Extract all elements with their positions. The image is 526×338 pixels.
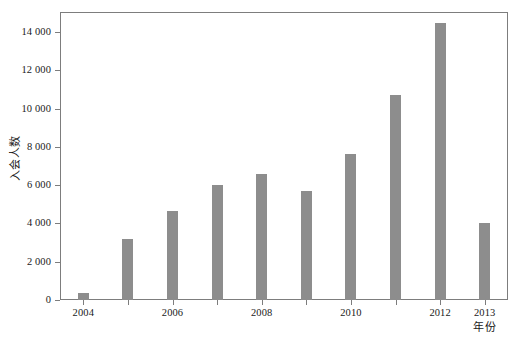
y-axis-tick: 4 000 <box>0 223 60 224</box>
x-tick-mark <box>306 300 307 305</box>
y-tick-label: 10 000 <box>22 101 51 117</box>
y-tick-label: 4 000 <box>27 215 51 231</box>
y-tick-label: 8 000 <box>27 139 51 155</box>
x-tick-mark <box>485 300 486 305</box>
x-tick-label: 2008 <box>242 307 282 318</box>
y-tick-label: 12 000 <box>22 62 51 78</box>
y-tick-mark <box>55 109 60 110</box>
y-tick-mark <box>55 147 60 148</box>
bar <box>167 211 178 300</box>
x-tick-mark <box>83 300 84 305</box>
bar <box>479 223 490 300</box>
y-tick-mark <box>55 185 60 186</box>
y-tick-label: 0 <box>46 292 51 308</box>
y-axis-tick: 10 000 <box>0 109 60 110</box>
x-tick-mark <box>262 300 263 305</box>
x-tick-mark <box>173 300 174 305</box>
bar <box>122 239 133 300</box>
x-tick-label: 2004 <box>63 307 103 318</box>
y-tick-label: 14 000 <box>22 24 51 40</box>
bar <box>256 174 267 300</box>
y-tick-mark <box>55 262 60 263</box>
bar <box>212 185 223 300</box>
y-tick-mark <box>55 300 60 301</box>
y-axis-tick: 14 000 <box>0 32 60 33</box>
y-axis-tick: 12 000 <box>0 70 60 71</box>
x-axis-title: 年份 <box>462 318 508 334</box>
x-tick-label: 2006 <box>153 307 193 318</box>
x-tick-mark <box>396 300 397 305</box>
bar-chart: 02 0004 0006 0008 00010 00012 00014 000 … <box>0 0 526 338</box>
bar <box>345 154 356 300</box>
x-tick-mark <box>217 300 218 305</box>
x-tick-label: 2013 <box>465 307 505 318</box>
x-tick-label: 2012 <box>420 307 460 318</box>
x-tick-label: 2010 <box>331 307 371 318</box>
x-tick-mark <box>351 300 352 305</box>
y-tick-label: 2 000 <box>27 254 51 270</box>
bar <box>435 23 446 300</box>
y-tick-mark <box>55 223 60 224</box>
y-tick-mark <box>55 70 60 71</box>
bar-series <box>61 13 507 300</box>
y-axis-title: 入会人数 <box>6 118 22 198</box>
x-tick-mark <box>128 300 129 305</box>
bar <box>390 95 401 300</box>
bar <box>301 191 312 300</box>
y-axis-tick: 2 000 <box>0 262 60 263</box>
y-tick-label: 6 000 <box>27 177 51 193</box>
x-tick-mark <box>440 300 441 305</box>
y-axis-tick: 0 <box>0 300 60 301</box>
bar <box>78 293 89 300</box>
y-tick-mark <box>55 32 60 33</box>
